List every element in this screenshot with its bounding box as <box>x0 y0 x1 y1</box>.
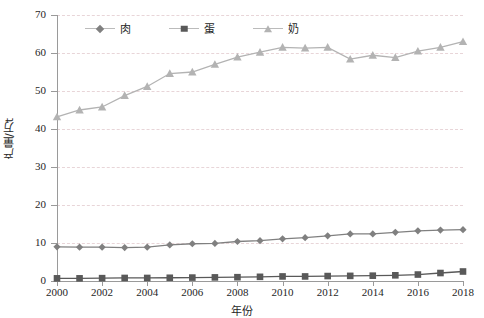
triangle-marker-icon <box>98 103 106 111</box>
triangle-marker-icon <box>143 82 151 90</box>
square-marker-icon <box>279 273 286 280</box>
triangle-marker-icon <box>264 25 272 32</box>
triangle-marker-icon <box>369 51 377 59</box>
diamond-marker-icon <box>211 240 218 247</box>
square-marker-icon <box>460 268 467 275</box>
square-marker-icon <box>369 272 376 279</box>
legend-label-meat: 肉 <box>120 20 131 36</box>
square-marker-icon <box>415 271 422 278</box>
square-marker-icon <box>121 275 128 282</box>
diamond-marker-icon <box>256 237 263 244</box>
diamond-marker-icon <box>347 230 354 237</box>
diamond-marker-icon <box>324 232 331 239</box>
square-marker-icon <box>392 272 399 279</box>
diamond-marker-icon <box>53 243 60 250</box>
chart-legend: 肉 蛋 奶 <box>85 20 299 36</box>
diamond-marker-icon <box>144 244 151 251</box>
diamond-marker-icon <box>234 238 241 245</box>
square-marker-icon <box>234 274 241 281</box>
production-line-chart: 010203040506070 200020022004200620082010… <box>0 0 484 318</box>
legend-line-egg <box>169 28 199 29</box>
legend-item-egg[interactable]: 蛋 <box>169 20 215 36</box>
diamond-marker-icon <box>189 240 196 247</box>
legend-line-meat <box>85 28 115 29</box>
legend-label-milk: 奶 <box>288 20 299 36</box>
square-marker-icon <box>144 275 151 282</box>
square-marker-icon <box>181 25 188 32</box>
diamond-marker-icon <box>369 230 376 237</box>
diamond-marker-icon <box>437 226 444 233</box>
legend-label-egg: 蛋 <box>204 20 215 36</box>
diamond-marker-icon <box>279 235 286 242</box>
square-marker-icon <box>54 275 61 282</box>
x-axis-title: 年份 <box>0 302 484 318</box>
diamond-marker-icon <box>166 241 173 248</box>
square-marker-icon <box>257 274 264 281</box>
series-lines <box>0 0 484 318</box>
square-marker-icon <box>76 275 83 282</box>
diamond-marker-icon <box>302 234 309 241</box>
legend-item-milk[interactable]: 奶 <box>253 20 299 36</box>
diamond-marker-icon <box>459 226 466 233</box>
diamond-marker-icon <box>96 24 104 32</box>
square-marker-icon <box>212 274 219 281</box>
square-marker-icon <box>189 274 196 281</box>
square-marker-icon <box>437 270 444 277</box>
diamond-marker-icon <box>121 244 128 251</box>
square-marker-icon <box>99 275 106 282</box>
y-axis-title: 产量/万t <box>2 118 18 159</box>
diamond-marker-icon <box>392 229 399 236</box>
square-marker-icon <box>302 273 309 280</box>
square-marker-icon <box>347 273 354 280</box>
legend-line-milk <box>253 28 283 29</box>
triangle-marker-icon <box>120 91 128 99</box>
square-marker-icon <box>324 273 331 280</box>
triangle-marker-icon <box>459 37 467 45</box>
diamond-marker-icon <box>99 244 106 251</box>
square-marker-icon <box>166 274 173 281</box>
diamond-marker-icon <box>76 244 83 251</box>
diamond-marker-icon <box>414 227 421 234</box>
legend-item-meat[interactable]: 肉 <box>85 20 131 36</box>
